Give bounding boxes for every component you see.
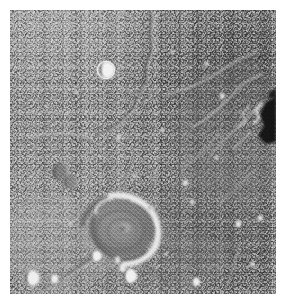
film-grain [10,10,276,294]
planetary-surface-photo [10,10,276,294]
image-frame [0,0,285,303]
